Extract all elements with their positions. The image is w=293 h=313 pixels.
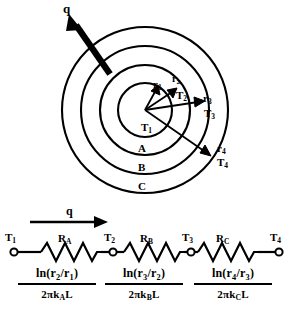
heat-flow-arrow <box>66 14 110 74</box>
temperature-label-t2: T2 <box>176 90 187 101</box>
radius-label-r3: r3 <box>203 93 212 104</box>
network-flow-label: q <box>66 205 73 217</box>
network-node-label-t3: T3 <box>182 232 193 243</box>
resistor-zigzag-b <box>124 243 184 261</box>
resistance-expression-c-numerator: ln(r4/r3) <box>194 266 272 283</box>
resistor-label-rc: RC <box>216 233 229 244</box>
layer-label-b: B <box>138 162 145 173</box>
radius-arrow-r4 <box>145 110 211 156</box>
resistance-expression-b-denominator: 2πkBL <box>105 285 183 300</box>
heat-flow-arrow-label: q <box>63 2 70 15</box>
radius-label-r2: r2 <box>172 74 180 84</box>
node-terminal-t3 <box>187 248 194 255</box>
resistance-expression-c-denominator: 2πkCL <box>194 285 272 300</box>
network-node-label-t4: T4 <box>270 232 281 243</box>
resistance-expression-a-denominator: 2πkAL <box>18 285 96 300</box>
resistance-expression-b-numerator: ln(r3/r2) <box>105 266 183 283</box>
resistance-expression-c: ln(r4/r3) 2πkCL <box>194 266 272 300</box>
layer-label-c: C <box>138 181 146 192</box>
radius-label-r1: r1 <box>153 79 162 90</box>
resistor-zigzag-a <box>41 243 101 261</box>
temperature-label-t4: T4 <box>217 157 228 168</box>
radius-label-r4: r4 <box>217 143 226 154</box>
network-node-label-t1: T1 <box>5 232 16 243</box>
resistor-label-ra: RA <box>58 233 71 244</box>
node-terminal-t4 <box>275 248 282 255</box>
resistor-label-rb: RB <box>140 233 153 244</box>
temperature-label-t1-center: T1 <box>141 122 152 133</box>
resistance-expression-b: ln(r3/r2) 2πkBL <box>105 266 183 300</box>
temperature-label-t3: T3 <box>204 108 215 119</box>
resistance-expression-a-numerator: ln(r2/r1) <box>18 266 96 283</box>
layer-label-a: A <box>138 143 146 154</box>
node-terminal-t1 <box>10 248 17 255</box>
network-node-label-t2: T2 <box>104 232 115 243</box>
resistance-expression-a: ln(r2/r1) 2πkAL <box>18 266 96 300</box>
heat-transfer-figure: q r1 r2 r3 r4 T1 T2 T3 T4 A B C q T1 T2 … <box>0 0 293 313</box>
node-terminal-t2 <box>109 248 116 255</box>
